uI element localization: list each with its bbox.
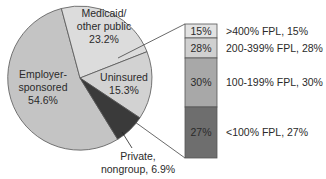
side-label-100: 100-199% FPL, 30% [226, 76, 323, 88]
label-private-line2: nongroup, 6.9% [98, 163, 178, 176]
seg-label-200: 28% [185, 42, 217, 54]
label-employer-value: 54.6% [12, 94, 74, 107]
label-uninsured: Uninsured 15.3% [96, 71, 152, 97]
label-private-line1: Private, [98, 150, 178, 163]
seg-label-lt100: 27% [185, 126, 217, 138]
label-medicaid-line2: other public [72, 20, 136, 33]
label-uninsured-value: 15.3% [96, 84, 152, 97]
side-label-lt100: <100% FPL, 27% [226, 126, 308, 138]
label-employer-line1: Employer- [12, 68, 74, 81]
side-label-200: 200-399% FPL, 28% [226, 42, 323, 54]
seg-label-100: 30% [185, 76, 217, 88]
side-label-400: >400% FPL, 15% [226, 25, 308, 37]
label-medicaid: Medicaid/ other public 23.2% [72, 7, 136, 46]
label-uninsured-line1: Uninsured [96, 71, 152, 84]
private-pointer [122, 132, 132, 148]
label-medicaid-value: 23.2% [72, 33, 136, 46]
seg-label-400: 15% [185, 25, 217, 37]
label-employer-line2: sponsored [12, 81, 74, 94]
label-employer: Employer- sponsored 54.6% [12, 68, 74, 107]
label-medicaid-line1: Medicaid/ [72, 7, 136, 20]
label-private: Private, nongroup, 6.9% [98, 150, 178, 176]
